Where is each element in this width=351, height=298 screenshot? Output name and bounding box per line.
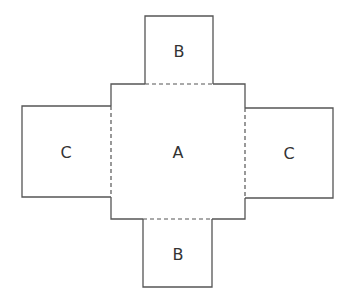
label-left-c: C [60, 143, 71, 162]
label-top-b: B [174, 42, 185, 61]
label-right-c: C [283, 144, 294, 163]
net-diagram: B A C C B [0, 0, 351, 298]
label-center-a: A [173, 143, 184, 162]
label-bottom-b: B [173, 245, 184, 264]
